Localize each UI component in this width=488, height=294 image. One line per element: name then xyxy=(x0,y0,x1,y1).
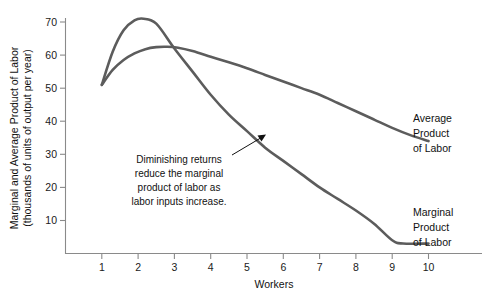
x-tick-label: 4 xyxy=(208,261,214,273)
x-axis-ticks: 1 2 3 4 5 6 7 8 9 10 xyxy=(99,254,435,274)
average-product-curve xyxy=(102,47,429,141)
y-tick-label: 40 xyxy=(45,115,57,127)
y-axis-ticks: 70 60 50 40 30 20 10 xyxy=(45,16,65,227)
marginal-label-line2: Product xyxy=(413,221,449,233)
x-tick-label: 1 xyxy=(99,261,105,273)
x-tick-label: 2 xyxy=(135,261,141,273)
x-tick-label: 7 xyxy=(317,261,323,273)
annotation-leader-line xyxy=(232,136,264,155)
y-tick-label: 10 xyxy=(45,214,57,226)
x-tick-label: 10 xyxy=(423,261,435,273)
y-tick-label: 70 xyxy=(45,16,57,28)
y-tick-label: 50 xyxy=(45,82,57,94)
annotation-line3: product of labor as xyxy=(138,182,221,193)
annotation-line1: Diminishing returns xyxy=(136,154,222,165)
marginal-product-label: Marginal Product of Labor xyxy=(413,206,453,248)
figure-container: Marginal and Average Product of Labor (t… xyxy=(0,0,488,294)
marginal-label-line1: Marginal xyxy=(413,206,453,218)
y-tick-label: 20 xyxy=(45,181,57,193)
y-axis-label-line2: (thousands of units of output per year) xyxy=(21,49,33,226)
average-product-label: Average Product of Labor xyxy=(413,112,452,154)
average-label-line3: of Labor xyxy=(413,142,452,154)
y-axis-label: Marginal and Average Product of Labor (t… xyxy=(8,46,33,229)
marginal-label-line3: of Labor xyxy=(413,236,452,248)
x-tick-label: 6 xyxy=(280,261,286,273)
y-tick-label: 30 xyxy=(45,148,57,160)
diminishing-returns-annotation: Diminishing returns reduce the marginal … xyxy=(131,135,266,208)
annotation-line2: reduce the marginal xyxy=(135,168,223,179)
average-label-line2: Product xyxy=(413,127,449,139)
x-tick-label: 9 xyxy=(389,261,395,273)
annotation-line4: labor inputs increase. xyxy=(131,196,226,207)
product-of-labor-chart: Marginal and Average Product of Labor (t… xyxy=(0,0,488,294)
x-tick-label: 5 xyxy=(244,261,250,273)
y-tick-label: 60 xyxy=(45,49,57,61)
average-label-line1: Average xyxy=(413,112,452,124)
y-axis-label-line1: Marginal and Average Product of Labor xyxy=(8,46,20,229)
x-tick-label: 3 xyxy=(171,261,177,273)
x-tick-label: 8 xyxy=(353,261,359,273)
x-axis-title: Workers xyxy=(255,278,294,290)
marginal-product-curve xyxy=(102,18,429,243)
